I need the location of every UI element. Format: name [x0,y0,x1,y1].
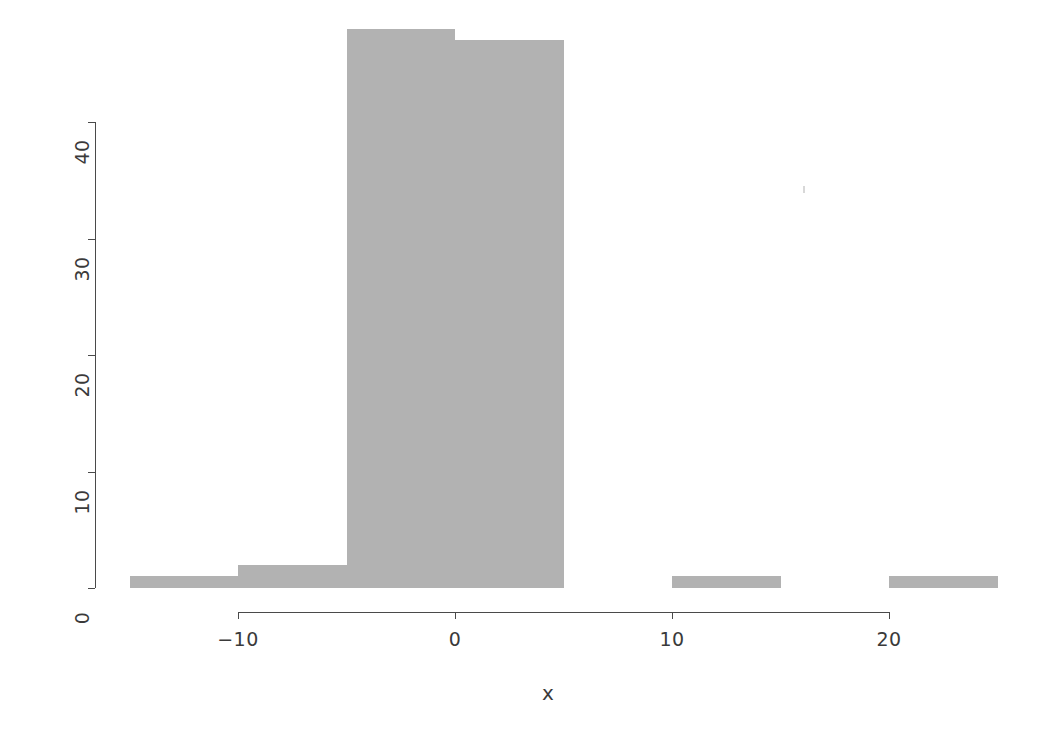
histogram-plot: 0 10 20 30 40 −10 0 10 20 x [0,0,1048,734]
x-axis-line [238,612,889,613]
x-axis-tick [672,612,673,619]
histogram-bar [238,565,347,588]
x-axis-tick-label: −10 [198,628,278,650]
y-axis-tick-label: 0 [71,588,93,648]
y-axis-tick-label: 10 [71,472,93,532]
x-axis-tick [455,612,456,619]
x-axis-tick [238,612,239,619]
x-axis-tick [889,612,890,619]
histogram-bar [347,29,456,588]
y-axis-line [95,122,96,588]
x-axis-tick-label: 0 [415,628,495,650]
x-axis-tick-label: 10 [632,628,712,650]
x-axis-tick-label: 20 [849,628,929,650]
y-axis-tick-label: 20 [71,355,93,415]
plot-area: 0 10 20 30 40 −10 0 10 20 x [0,0,1048,734]
histogram-bar [889,576,998,588]
y-axis-tick-label: 40 [71,122,93,182]
scan-artifact [803,186,805,193]
histogram-bar [130,576,239,588]
y-axis-tick-label: 30 [71,239,93,299]
histogram-bar [672,576,781,588]
x-axis-title: x [498,681,598,705]
histogram-bar [455,40,564,588]
